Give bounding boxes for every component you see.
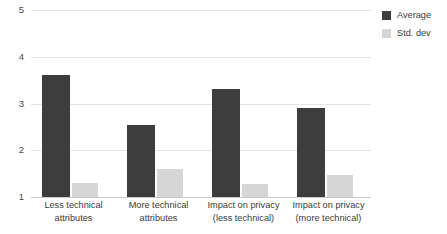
- bar-average[interactable]: [297, 108, 325, 197]
- legend-swatch-average-icon: [382, 11, 391, 20]
- legend-swatch-std-dev-icon: [382, 29, 391, 38]
- bar-std-dev[interactable]: [72, 183, 98, 197]
- x-axis-label: Impact on privacy(more technical): [278, 199, 379, 224]
- y-axis-tick-3: 3: [19, 99, 24, 109]
- gridline-1: 1: [31, 197, 371, 198]
- x-axis-labels: Less technicalattributesMore technicalat…: [31, 199, 371, 231]
- plot-area: 12345: [31, 10, 371, 197]
- legend-item-average[interactable]: Average: [382, 11, 446, 20]
- y-axis-tick-5: 5: [19, 5, 24, 15]
- bar-std-dev[interactable]: [327, 175, 353, 197]
- bar-std-dev[interactable]: [157, 169, 183, 197]
- legend-item-std-dev[interactable]: Std. dev: [382, 29, 446, 38]
- x-axis-label-line: (more technical): [278, 212, 379, 225]
- bar-group: [116, 10, 201, 197]
- bar-chart: 12345 Less technicalattributesMore techn…: [0, 0, 447, 234]
- bar-average[interactable]: [212, 89, 240, 197]
- bar-series-container: [31, 10, 371, 197]
- bar-average[interactable]: [42, 75, 70, 197]
- legend-label-std-dev: Std. dev: [397, 29, 431, 38]
- x-axis-label-line: Impact on privacy: [278, 199, 379, 212]
- bar-average[interactable]: [127, 125, 155, 197]
- legend-label-average: Average: [397, 11, 431, 20]
- y-axis-tick-4: 4: [19, 52, 24, 62]
- y-axis-tick-2: 2: [19, 146, 24, 156]
- bar-std-dev[interactable]: [242, 184, 268, 197]
- bar-group: [31, 10, 116, 197]
- bar-group: [286, 10, 371, 197]
- bar-group: [201, 10, 286, 197]
- chart-legend: Average Std. dev: [382, 11, 446, 47]
